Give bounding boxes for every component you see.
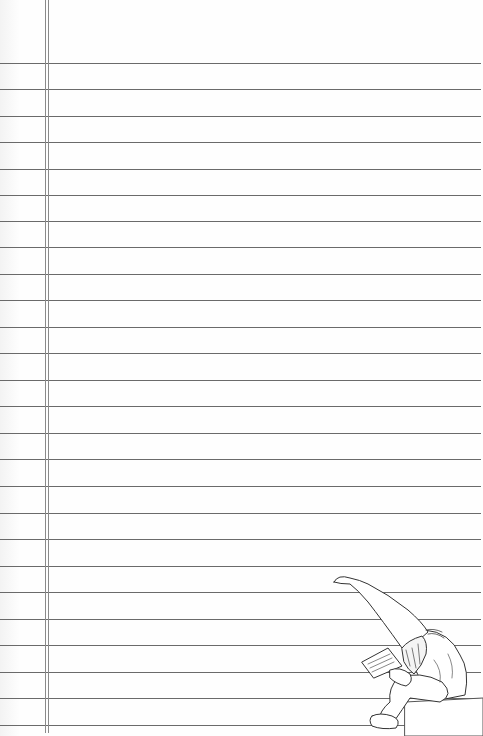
gnome-hat-icon bbox=[334, 577, 428, 648]
rule-line bbox=[0, 327, 481, 328]
page-edge-shadow bbox=[0, 0, 20, 736]
rule-line bbox=[0, 89, 481, 90]
lined-paper-sheet bbox=[0, 0, 483, 736]
rule-line bbox=[0, 513, 481, 514]
rule-line bbox=[0, 142, 481, 143]
rule-line bbox=[0, 300, 481, 301]
rule-line bbox=[0, 195, 481, 196]
rule-line bbox=[0, 274, 481, 275]
margin-line bbox=[48, 0, 49, 733]
rule-line bbox=[0, 221, 481, 222]
seat-block-icon bbox=[405, 698, 483, 736]
rule-line bbox=[0, 539, 481, 540]
rule-line bbox=[0, 353, 481, 354]
rule-line bbox=[0, 247, 481, 248]
rule-line bbox=[0, 433, 481, 434]
rule-line bbox=[0, 116, 481, 117]
margin-line bbox=[45, 0, 46, 733]
rule-line bbox=[0, 406, 481, 407]
rule-line bbox=[0, 486, 481, 487]
rule-line bbox=[0, 380, 481, 381]
rule-line bbox=[0, 566, 481, 567]
gnome-reading-illustration bbox=[330, 570, 483, 736]
rule-line bbox=[0, 459, 481, 460]
rule-line bbox=[0, 169, 481, 170]
rule-line bbox=[0, 63, 481, 64]
